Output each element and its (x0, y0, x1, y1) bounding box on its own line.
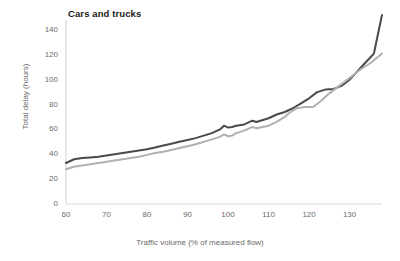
series-line (66, 54, 382, 170)
line-chart-figure: Cars and trucks Total delay (hours) Traf… (0, 0, 400, 261)
data-series-group (66, 15, 382, 169)
plot-area (0, 0, 400, 261)
